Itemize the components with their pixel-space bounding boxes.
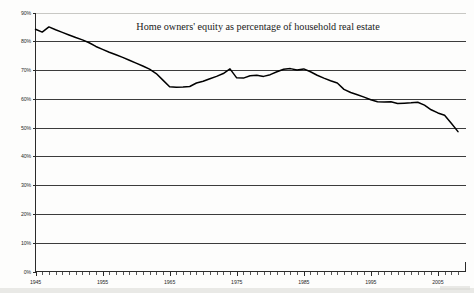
x-axis-tick-label: 2005 <box>432 279 443 285</box>
y-axis-labels: 0%10%20%30%40%50%60%70%80%90% <box>21 10 36 275</box>
x-axis-tick-label: 1965 <box>164 279 175 285</box>
x-axis-tick-label: 1945 <box>30 279 41 285</box>
y-axis-tick-label: 40% <box>21 153 32 159</box>
y-axis-tick-label: 0% <box>24 269 32 275</box>
chart-title: Home owners' equity as percentage of hou… <box>136 21 380 32</box>
y-axis-tick-label: 50% <box>21 125 32 131</box>
y-axis-tick-label: 10% <box>21 240 32 246</box>
y-axis-tick-label: 70% <box>21 67 32 73</box>
data-series-line <box>36 27 459 132</box>
scan-artifacts <box>0 286 474 293</box>
chart-container: 0%10%20%30%40%50%60%70%80%90% 1945195519… <box>0 0 474 293</box>
y-axis-tick-label: 90% <box>21 10 32 16</box>
x-axis-tick-label: 1975 <box>231 279 242 285</box>
y-axis-tick-label: 20% <box>21 211 32 217</box>
y-axis-tick-label: 30% <box>21 182 32 188</box>
x-axis-tick-label: 1955 <box>97 279 108 285</box>
x-axis-tick-label: 1985 <box>298 279 309 285</box>
equity-line-chart: 0%10%20%30%40%50%60%70%80%90% 1945195519… <box>0 0 474 293</box>
x-axis-labels: 1945195519651975198519952005 <box>30 279 444 285</box>
y-axis-tick-label: 80% <box>21 38 32 44</box>
y-axis-tick-label: 60% <box>21 96 32 102</box>
x-axis-tick-label: 1995 <box>365 279 376 285</box>
